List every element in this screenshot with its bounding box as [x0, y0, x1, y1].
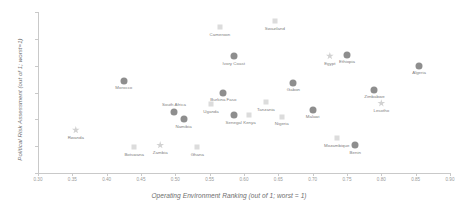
x-tick-label: 0.60 — [240, 177, 249, 182]
data-point-swaziland[interactable] — [272, 19, 277, 24]
data-point-label: Malawi — [306, 114, 320, 119]
x-tick-label: 0.35 — [68, 177, 77, 182]
data-point-label: Namibia — [175, 124, 191, 129]
x-tick-mark — [175, 173, 176, 176]
data-point-label: Benin — [350, 150, 361, 155]
x-tick-label: 0.30 — [34, 177, 43, 182]
data-point-mozambique[interactable] — [334, 136, 339, 141]
data-point-malawi[interactable] — [309, 106, 316, 113]
scatter-chart: Political Risk Assessment (out of 1; wor… — [0, 0, 458, 213]
data-point-morocco[interactable] — [120, 77, 127, 84]
x-tick-label: 0.40 — [102, 177, 111, 182]
data-point-tanzania[interactable] — [263, 100, 268, 105]
data-point-label: South Africa — [162, 102, 186, 107]
data-point-gabon[interactable] — [290, 79, 297, 86]
data-point-label: Burkina Faso — [210, 97, 236, 102]
x-axis-title: Operating Environment Ranking (out of 1;… — [0, 192, 458, 199]
y-axis-title: Political Risk Assessment (out of 1; wor… — [16, 25, 23, 175]
x-tick-label: 0.75 — [343, 177, 352, 182]
data-point-label: Mozambique — [324, 143, 349, 148]
data-point-label: Ethiopia — [339, 59, 355, 64]
data-point-zimbabwe[interactable] — [371, 86, 378, 93]
x-tick-mark — [210, 173, 211, 176]
data-point-label: Zambia — [153, 150, 168, 155]
x-tick-mark — [381, 173, 382, 176]
data-point-label: Rwanda — [68, 135, 84, 140]
x-tick-label: 0.55 — [205, 177, 214, 182]
x-tick-mark — [141, 173, 142, 176]
data-point-ethiopia[interactable] — [344, 51, 351, 58]
x-tick-label: 0.50 — [171, 177, 180, 182]
data-point-cameroon[interactable] — [217, 25, 222, 30]
x-tick-mark — [416, 173, 417, 176]
data-point-label: Morocco — [115, 85, 132, 90]
x-tick-label: 0.90 — [446, 177, 455, 182]
data-point-label: Swaziland — [265, 26, 285, 31]
x-tick-label: 0.80 — [377, 177, 386, 182]
x-tick-mark — [244, 173, 245, 176]
data-point-label: Tanzania — [257, 107, 275, 112]
data-point-label: Senegal — [226, 120, 242, 125]
data-point-label: Ghana — [191, 152, 204, 157]
data-point-label: Gabon — [287, 87, 300, 92]
data-point-ghana[interactable] — [195, 145, 200, 150]
data-point-burkina-faso[interactable] — [220, 89, 227, 96]
data-point-botswana[interactable] — [132, 145, 137, 150]
data-point-label: Ivory Coast — [222, 61, 244, 66]
x-tick-label: 0.85 — [411, 177, 420, 182]
data-point-label: Uganda — [203, 109, 219, 114]
data-point-label: Algeria — [412, 70, 426, 75]
data-point-nigeria[interactable] — [279, 114, 284, 119]
x-tick-mark — [313, 173, 314, 176]
data-point-namibia[interactable] — [180, 116, 187, 123]
data-point-ivory-coast[interactable] — [230, 53, 237, 60]
x-tick-label: 0.70 — [308, 177, 317, 182]
data-point-kenya[interactable] — [247, 113, 252, 118]
x-tick-label: 0.45 — [137, 177, 146, 182]
data-point-algeria[interactable] — [416, 62, 423, 69]
data-point-label: Nigeria — [275, 121, 289, 126]
data-point-benin[interactable] — [352, 142, 359, 149]
plot-area — [38, 12, 450, 173]
data-point-uganda[interactable] — [209, 102, 214, 107]
x-tick-mark — [450, 173, 451, 176]
data-point-senegal[interactable] — [230, 112, 237, 119]
x-tick-label: 0.65 — [274, 177, 283, 182]
data-point-label: Zimbabwe — [364, 94, 384, 99]
data-point-south-africa[interactable] — [170, 109, 177, 116]
x-tick-mark — [278, 173, 279, 176]
x-tick-mark — [107, 173, 108, 176]
x-tick-mark — [347, 173, 348, 176]
data-point-label: Lesotho — [373, 108, 389, 113]
data-point-label: Cameroon — [210, 32, 231, 37]
data-point-label: Kenya — [243, 120, 256, 125]
data-point-label: Egypt — [324, 61, 335, 66]
x-tick-mark — [72, 173, 73, 176]
data-point-label: Botswana — [124, 152, 143, 157]
x-tick-mark — [38, 173, 39, 176]
